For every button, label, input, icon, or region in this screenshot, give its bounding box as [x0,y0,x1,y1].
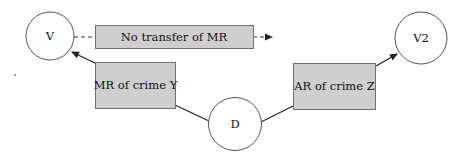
box-mr-of-crime-y-label: MR of crime Y [94,78,178,92]
edge-mr-crime-y-to-v [72,52,97,64]
diagram-canvas: V V2 D No transfer of MR MR of crime Y A… [0,0,470,155]
edge-d-to-mr-crime-y [175,105,209,121]
node-v2: V2 [395,12,447,64]
box-ar-of-crime-z: AR of crime Z [293,64,375,110]
node-d: D [209,98,262,151]
edge-d-to-ar-crime-z [261,106,293,122]
node-v-label: V [45,29,55,43]
edge-ar-crime-z-to-v2 [376,54,397,66]
box-no-transfer-of-mr-label: No transfer of MR [121,30,228,44]
box-ar-of-crime-z-label: AR of crime Z [293,79,374,93]
box-mr-of-crime-y: MR of crime Y [94,63,178,109]
stray-dot [14,74,16,76]
node-d-label: D [230,117,239,131]
node-v2-label: V2 [412,31,429,45]
node-v: V [26,12,74,60]
box-no-transfer-of-mr: No transfer of MR [96,26,254,49]
